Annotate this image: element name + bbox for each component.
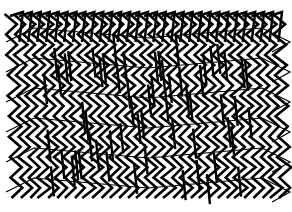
zigzag-mesh-artwork — [0, 0, 292, 212]
generative-art-canvas — [0, 0, 292, 212]
